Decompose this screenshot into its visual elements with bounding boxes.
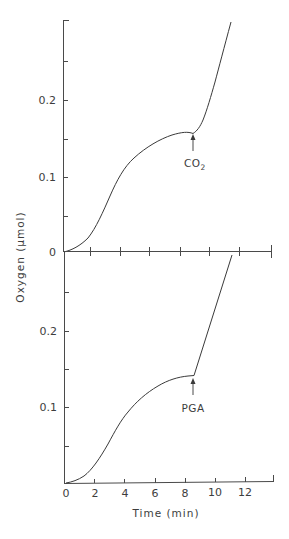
pga-label: PGA — [181, 402, 204, 414]
upper-curve — [64, 22, 231, 252]
x-tick-0: 0 — [63, 487, 70, 500]
lower-y-tick-0-1: 0.1 — [40, 401, 58, 414]
x-tick-8: 8 — [182, 487, 189, 500]
upper-y-tick-0: 0 — [49, 246, 56, 259]
upper-y-ticks — [64, 21, 70, 217]
lower-y-tick-0-2: 0.2 — [40, 325, 58, 338]
lower-x-tick-labels: 0 2 4 6 8 10 12 — [63, 486, 253, 500]
x-tick-10: 10 — [208, 486, 222, 499]
lower-curve — [66, 255, 232, 483]
upper-y-tick-0-2: 0.2 — [39, 94, 57, 107]
upper-y-tick-0-1: 0.1 — [39, 171, 57, 184]
lower-y-ticks — [65, 293, 70, 447]
lower-panel: 0.2 0.1 0 2 4 6 8 10 12 PGA — [40, 252, 275, 500]
co2-annotation: CO2 — [184, 134, 206, 172]
upper-x-axis — [64, 245, 273, 258]
lower-x-axis — [65, 475, 275, 484]
co2-label: CO2 — [184, 157, 206, 172]
x-tick-2: 2 — [92, 487, 99, 500]
y-axis-label: Oxygen (μmol) — [14, 211, 26, 302]
x-tick-4: 4 — [122, 487, 129, 500]
pga-annotation: PGA — [181, 378, 204, 414]
x-tick-6: 6 — [152, 487, 159, 500]
x-tick-12: 12 — [238, 486, 252, 499]
upper-panel: 0.2 0.1 0 CO2 — [39, 20, 232, 259]
x-axis-label: Time (min) — [131, 507, 199, 519]
oxygen-evolution-figure: 0.2 0.1 0 CO2 0.2 0.1 — [0, 0, 289, 539]
